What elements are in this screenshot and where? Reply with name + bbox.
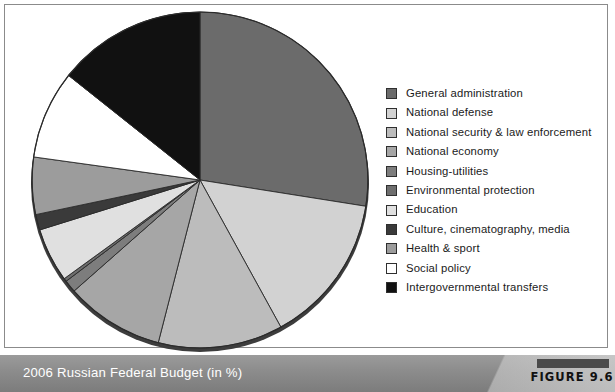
- figure-caption-text: 2006 Russian Federal Budget (in %): [23, 365, 242, 380]
- legend-item: Culture, cinematography, media: [386, 220, 611, 239]
- legend-item: Intergovernmental transfers: [386, 278, 611, 297]
- figure-tag-label: FIGURE 9.6: [529, 370, 615, 384]
- legend-item: Social policy: [386, 259, 611, 278]
- legend-item-label: Social policy: [406, 263, 471, 274]
- figure-page: General administrationNational defenseNa…: [0, 0, 615, 392]
- legend-item: General administration: [386, 84, 611, 103]
- legend-swatch: [386, 224, 397, 235]
- legend-item-label: Intergovernmental transfers: [406, 282, 548, 293]
- legend-item-label: National economy: [406, 146, 499, 157]
- legend-swatch: [386, 185, 397, 196]
- figure-tag-bar: [537, 359, 609, 368]
- legend-swatch: [386, 263, 397, 274]
- legend-swatch: [386, 108, 397, 119]
- legend-item-label: National security & law enforcement: [406, 127, 591, 138]
- pie-chart-area: [0, 0, 380, 350]
- legend-item: Housing-utilities: [386, 162, 611, 181]
- legend-swatch: [386, 146, 397, 157]
- legend-item: Environmental protection: [386, 181, 611, 200]
- legend-item: Health & sport: [386, 239, 611, 258]
- legend-item-label: General administration: [406, 88, 523, 99]
- pie-slice: [200, 12, 368, 206]
- legend-item-label: Culture, cinematography, media: [406, 224, 570, 235]
- figure-number-tag: FIGURE 9.6: [529, 355, 615, 392]
- figure-caption-bar: 2006 Russian Federal Budget (in %) FIGUR…: [0, 355, 615, 392]
- legend-swatch: [386, 88, 397, 99]
- legend-item-label: Health & sport: [406, 243, 480, 254]
- legend-item-label: Housing-utilities: [406, 166, 488, 177]
- legend-item-label: National defense: [406, 107, 493, 118]
- legend-swatch: [386, 243, 397, 254]
- legend-item-label: Education: [406, 204, 458, 215]
- legend-item: National economy: [386, 142, 611, 161]
- legend-item-label: Environmental protection: [406, 185, 535, 196]
- chart-legend: General administrationNational defenseNa…: [386, 84, 611, 297]
- legend-swatch: [386, 282, 397, 293]
- legend-item: National defense: [386, 103, 611, 122]
- legend-swatch: [386, 166, 397, 177]
- pie-slices: [32, 12, 368, 348]
- legend-swatch: [386, 127, 397, 138]
- legend-item: National security & law enforcement: [386, 123, 611, 142]
- pie-chart-svg: [0, 0, 380, 352]
- legend-swatch: [386, 205, 397, 216]
- legend-item: Education: [386, 200, 611, 219]
